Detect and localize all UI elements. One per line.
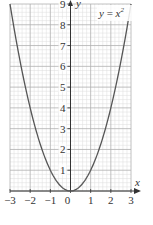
svg-text:−2: −2 [24,194,36,206]
svg-text:6: 6 [60,60,66,72]
svg-text:4: 4 [60,102,66,114]
svg-text:8: 8 [60,19,66,31]
svg-text:9: 9 [60,0,66,10]
svg-text:−3: −3 [4,194,16,206]
svg-text:2: 2 [60,143,66,155]
svg-text:1: 1 [60,164,66,176]
x-axis-label: x [134,176,140,188]
svg-text:−1: −1 [44,194,56,206]
svg-text:2: 2 [108,194,114,206]
svg-text:5: 5 [60,81,66,93]
svg-text:1: 1 [88,194,94,206]
svg-text:0: 0 [65,194,71,206]
svg-text:3: 3 [128,194,134,206]
parabola-chart: −3−2−10123123456789 y = x2 x y [0,0,153,225]
svg-text:7: 7 [60,40,66,52]
svg-text:3: 3 [60,123,66,135]
y-axis-label: y [75,0,81,9]
